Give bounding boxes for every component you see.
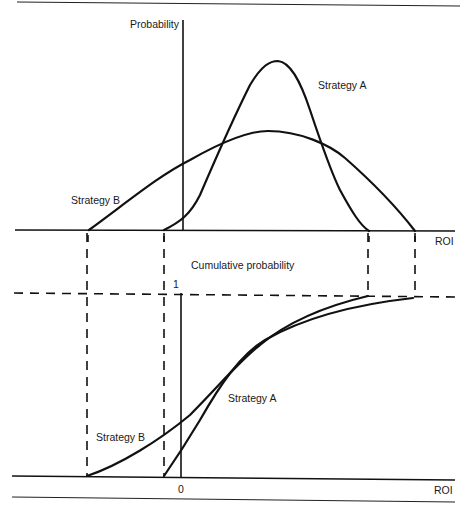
roi-probability-figure: Probability ROI Strategy A Strategy B Cu… [0, 0, 470, 509]
bottom-chart-title: Cumulative probability [191, 259, 295, 271]
bottom-strategy-b-label: Strategy B [96, 431, 145, 443]
bottom-y-tick-one: 1 [173, 278, 179, 290]
cumulative-probability-chart: Cumulative probability 1 0 ROI Strategy … [12, 259, 455, 496]
strategy-b-density-curve [89, 131, 415, 231]
top-strategy-a-label: Strategy A [318, 79, 366, 91]
bottom-x-axis-label: ROI [434, 484, 453, 496]
strategy-b-cumulative-curve [87, 296, 368, 476]
top-border-rule [17, 2, 460, 6]
bottom-border-rule [12, 497, 455, 502]
top-x-axis-label: ROI [435, 235, 454, 247]
top-x-axis [15, 230, 455, 231]
bottom-x-tick-zero: 0 [178, 483, 184, 495]
dashed-probability-one-line [14, 293, 455, 297]
top-y-axis-label: Probability [130, 18, 180, 30]
probability-density-chart: Probability ROI Strategy A Strategy B [15, 18, 455, 247]
top-strategy-b-label: Strategy B [71, 194, 120, 206]
bottom-x-axis [12, 476, 455, 480]
bottom-strategy-a-label: Strategy A [228, 392, 276, 404]
